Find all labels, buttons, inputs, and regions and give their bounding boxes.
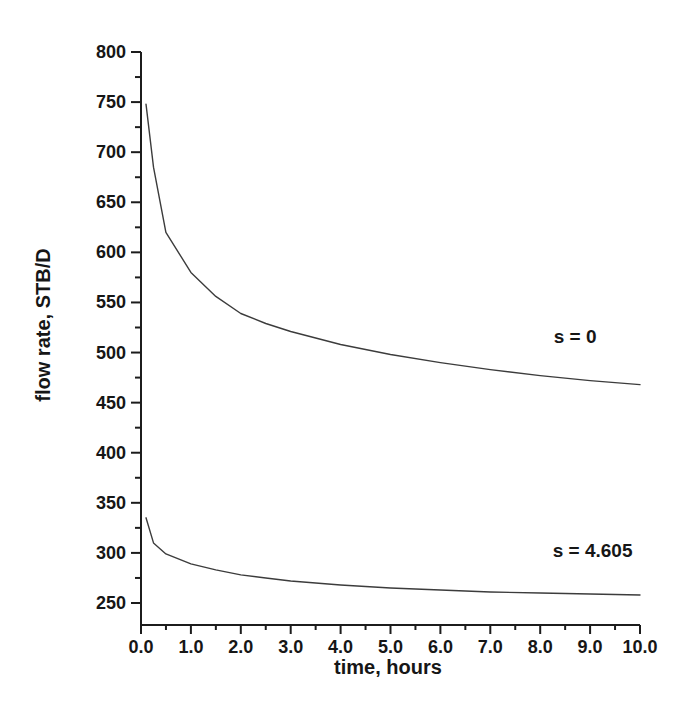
x-tick-label: 7.0 — [478, 637, 503, 657]
y-tick-label: 750 — [96, 92, 126, 112]
x-tick-label: 0.0 — [128, 637, 153, 657]
curves — [146, 104, 640, 595]
curve-annotation-1: s = 4.605 — [553, 540, 633, 561]
y-tick-label: 650 — [96, 192, 126, 212]
tick-labels: 2503003504004505005506006507007508000.01… — [96, 42, 658, 657]
x-axis-title: time, hours — [334, 656, 442, 678]
annotations: s = 0s = 4.605 — [553, 326, 633, 561]
y-tick-label: 250 — [96, 593, 126, 613]
scanned-chart-page: 2503003504004505005506006507007508000.01… — [0, 0, 689, 712]
y-tick-label: 550 — [96, 292, 126, 312]
x-tick-label: 10.0 — [622, 637, 657, 657]
flow-rate-vs-time-chart: 2503003504004505005506006507007508000.01… — [0, 0, 689, 712]
x-tick-label: 2.0 — [228, 637, 253, 657]
x-tick-label: 1.0 — [178, 637, 203, 657]
y-tick-label: 350 — [96, 493, 126, 513]
y-tick-label: 450 — [96, 393, 126, 413]
curve-annotation-0: s = 0 — [554, 326, 597, 347]
y-tick-label: 300 — [96, 543, 126, 563]
x-tick-label: 6.0 — [428, 637, 453, 657]
x-tick-label: 3.0 — [278, 637, 303, 657]
x-tick-label: 4.0 — [328, 637, 353, 657]
y-tick-label: 800 — [96, 42, 126, 62]
x-tick-label: 5.0 — [378, 637, 403, 657]
y-tick-label: 600 — [96, 242, 126, 262]
y-tick-label: 400 — [96, 443, 126, 463]
x-tick-label: 9.0 — [578, 637, 603, 657]
y-tick-label: 500 — [96, 343, 126, 363]
x-tick-label: 8.0 — [528, 637, 553, 657]
y-axis-title: flow rate, STB/D — [32, 248, 54, 401]
y-tick-label: 700 — [96, 142, 126, 162]
